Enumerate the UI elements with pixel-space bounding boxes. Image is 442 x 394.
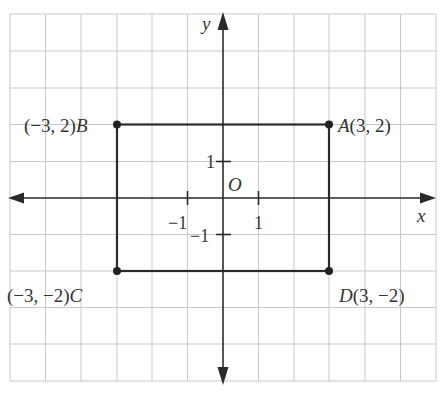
origin-label: O <box>228 174 242 195</box>
x-tick-label-pos1: 1 <box>254 213 263 233</box>
point-c-name: C <box>70 285 83 306</box>
y-axis-down-arrow-icon <box>218 367 229 385</box>
point-a-name: A <box>336 115 350 136</box>
x-axis-right-arrow-icon <box>420 193 436 204</box>
point-a-label: A(3, 2) <box>336 115 391 137</box>
point-b-label: (−3, 2)B <box>24 115 88 137</box>
point-b-coords: (−3, 2) <box>24 115 76 137</box>
y-axis-label: y <box>200 13 211 34</box>
point-d <box>325 267 333 275</box>
point-c-coords: (−3, −2) <box>7 285 70 307</box>
y-tick-label-pos1: 1 <box>206 152 215 172</box>
y-axis-up-arrow-icon <box>218 12 229 30</box>
coordinate-plane: 1 −1 1 −1 O x y A(3, 2) (−3, 2)B (−3, −2… <box>0 0 442 394</box>
point-d-label: D(3, −2) <box>338 285 405 307</box>
x-tick-label-neg1: −1 <box>168 213 187 233</box>
y-tick-label-neg1: −1 <box>190 226 209 246</box>
point-a-coords: (3, 2) <box>350 115 391 137</box>
point-b-name: B <box>76 115 88 136</box>
point-d-coords: (3, −2) <box>353 285 405 307</box>
point-d-name: D <box>338 285 353 306</box>
point-a <box>325 121 333 129</box>
point-c <box>113 267 121 275</box>
point-b <box>113 121 121 129</box>
point-c-label: (−3, −2)C <box>7 285 83 307</box>
x-axis-label: x <box>416 205 426 226</box>
